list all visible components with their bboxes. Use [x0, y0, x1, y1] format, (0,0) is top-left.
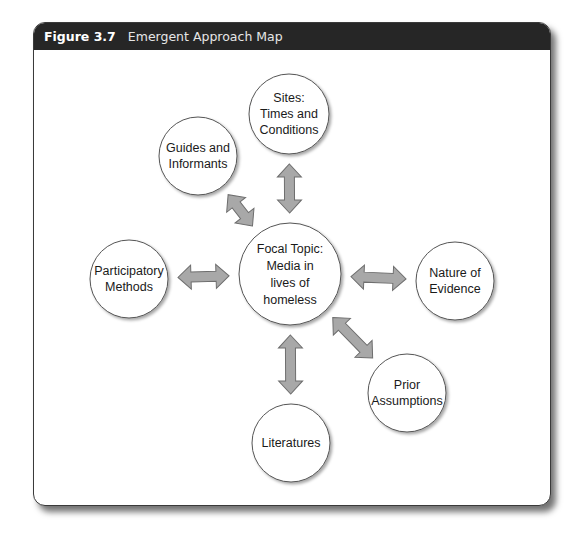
node-prior-circle: [368, 354, 446, 432]
arrow-focal-sites: [277, 164, 301, 213]
node-focal-label-line: Focal Topic:: [257, 242, 323, 256]
concept-map: Focal Topic:Media inlives ofhomelessSite…: [0, 0, 584, 534]
node-guides-circle: [159, 117, 237, 195]
node-sites: Sites:Times andConditions: [249, 74, 329, 154]
arrow-focal-literatures: [278, 335, 302, 394]
node-nature-label-line: Evidence: [429, 282, 480, 296]
node-nature: Nature ofEvidence: [416, 242, 494, 320]
node-sites-label-line: Times and: [260, 107, 318, 121]
arrow-focal-prior: [324, 309, 381, 366]
node-literatures: Literatures: [252, 404, 330, 482]
node-nature-label-line: Nature of: [429, 266, 481, 280]
node-nature-circle: [416, 242, 494, 320]
node-sites-label-line: Sites:: [273, 91, 304, 105]
node-guides: Guides andInformants: [159, 117, 237, 195]
arrow-focal-nature: [350, 265, 406, 291]
node-literatures-label-line: Literatures: [261, 436, 320, 450]
node-participatory: ParticipatoryMethods: [90, 240, 168, 318]
node-guides-label-line: Guides and: [166, 141, 230, 155]
node-focal-label-line: homeless: [263, 293, 317, 307]
node-participatory-circle: [90, 240, 168, 318]
node-prior-label-line: Assumptions: [371, 394, 443, 408]
node-participatory-label-line: Participatory: [94, 264, 164, 278]
node-sites-label-line: Conditions: [259, 123, 318, 137]
node-focal-circle: [239, 223, 341, 325]
node-focal-label-line: lives of: [271, 276, 310, 290]
node-focal-label-line: Media in: [266, 259, 313, 273]
node-focal: Focal Topic:Media inlives ofhomeless: [239, 223, 341, 325]
arrow-focal-guides: [219, 187, 262, 233]
node-guides-label-line: Informants: [168, 157, 227, 171]
node-participatory-label-line: Methods: [105, 280, 153, 294]
node-prior: PriorAssumptions: [368, 354, 446, 432]
arrow-focal-participatory: [178, 264, 230, 290]
node-prior-label-line: Prior: [394, 378, 420, 392]
